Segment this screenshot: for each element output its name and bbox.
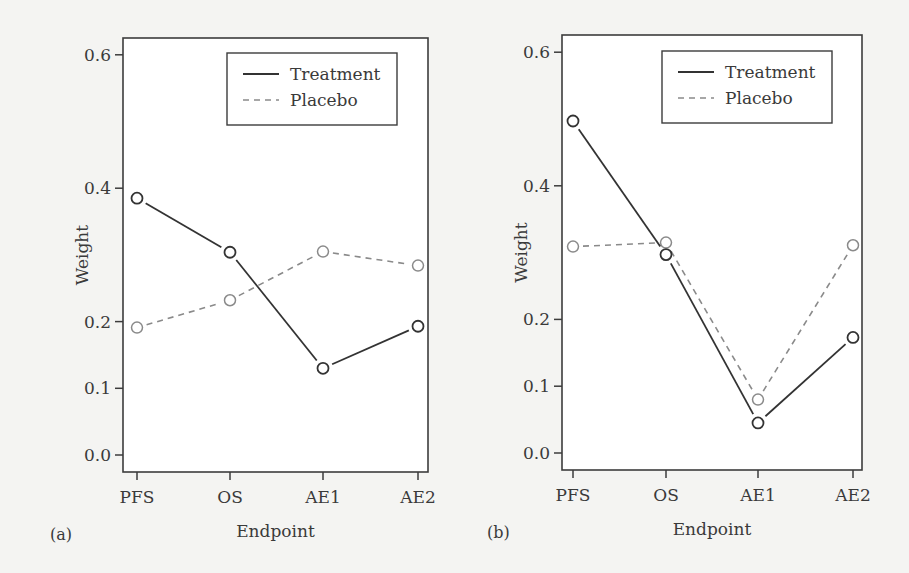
- legend-label-treatment: Treatment: [290, 64, 381, 84]
- x-tick-label: OS: [217, 487, 243, 507]
- treatment-point-os: [661, 249, 672, 260]
- x-tick-label: AE1: [304, 487, 341, 507]
- y-tick-label: 0.6: [84, 45, 111, 65]
- legend: TreatmentPlacebo: [662, 51, 832, 123]
- legend-label-treatment: Treatment: [725, 62, 816, 82]
- placebo-point-ae2: [848, 240, 859, 251]
- y-tick-label: 0.1: [84, 378, 111, 398]
- y-tick-label: 0.1: [523, 376, 550, 396]
- placebo-point-os: [225, 295, 236, 306]
- y-tick-label: 0.6: [523, 42, 550, 62]
- x-tick-label: AE2: [834, 485, 871, 505]
- y-tick-label: 0.4: [523, 176, 550, 196]
- placebo-point-pfs: [568, 241, 579, 252]
- x-axis-label: Endpoint: [673, 519, 752, 539]
- figure: 0.00.10.20.40.6PFSOSAE1AE2EndpointWeight…: [0, 0, 909, 573]
- y-tick-label: 0.2: [84, 312, 111, 332]
- placebo-point-os: [661, 237, 672, 248]
- panel-label: (b): [487, 523, 510, 542]
- y-tick-label: 0.2: [523, 309, 550, 329]
- y-tick-label: 0.0: [523, 443, 550, 463]
- chart-panel-b: 0.00.10.20.40.6PFSOSAE1AE2EndpointWeight…: [487, 35, 871, 542]
- treatment-point-ae1: [318, 363, 329, 374]
- treatment-point-pfs: [132, 193, 143, 204]
- treatment-point-ae2: [413, 321, 424, 332]
- x-tick-label: OS: [653, 485, 679, 505]
- legend-label-placebo: Placebo: [725, 88, 793, 108]
- x-tick-label: AE2: [399, 487, 436, 507]
- x-tick-label: AE1: [739, 485, 776, 505]
- placebo-point-ae1: [318, 246, 329, 257]
- treatment-point-ae2: [848, 332, 859, 343]
- y-axis-label: Weight: [511, 222, 531, 282]
- y-axis-label: Weight: [72, 225, 92, 285]
- panel-label: (a): [50, 525, 72, 544]
- placebo-point-pfs: [132, 322, 143, 333]
- placebo-point-ae2: [413, 260, 424, 271]
- treatment-point-ae1: [753, 417, 764, 428]
- chart-panel-a: 0.00.10.20.40.6PFSOSAE1AE2EndpointWeight…: [50, 38, 436, 544]
- placebo-point-ae1: [753, 394, 764, 405]
- y-tick-label: 0.4: [84, 178, 111, 198]
- treatment-point-os: [225, 247, 236, 258]
- x-tick-label: PFS: [556, 485, 591, 505]
- line-charts: 0.00.10.20.40.6PFSOSAE1AE2EndpointWeight…: [0, 0, 909, 573]
- x-axis-label: Endpoint: [236, 521, 315, 541]
- legend-label-placebo: Placebo: [290, 90, 358, 110]
- treatment-point-pfs: [568, 116, 579, 127]
- y-tick-label: 0.0: [84, 445, 111, 465]
- legend: TreatmentPlacebo: [227, 53, 397, 125]
- x-tick-label: PFS: [120, 487, 155, 507]
